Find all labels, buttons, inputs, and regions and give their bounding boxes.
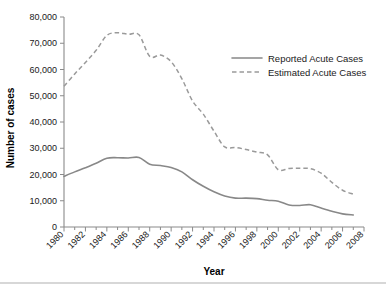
x-tick-label: 2004 [301,229,322,250]
x-tick-label: 1980 [44,229,65,250]
x-axis-tick-labels: 1980198219841986198819901992199419961998… [44,229,365,250]
x-tick-label: 1996 [216,229,237,250]
x-tick-label: 1982 [66,229,87,250]
chart-container: 010,00020,00030,00040,00050,00060,00070,… [0,0,386,289]
y-tick-label: 60,000 [29,65,57,75]
x-tick-label: 2002 [280,229,301,250]
x-tick-label: 1984 [87,229,108,250]
x-tick-label: 2000 [258,229,279,250]
x-tick-label: 1988 [130,229,151,250]
x-tick-label: 1994 [194,229,215,250]
y-axis-tick-labels: 010,00020,00030,00040,00050,00060,00070,… [29,12,57,232]
chart-legend: Reported Acute Cases Estimated Acute Cas… [232,53,366,78]
x-tick-label: 1990 [151,229,172,250]
y-tick-label: 30,000 [29,143,57,153]
x-tick-label: 2006 [323,229,344,250]
legend-label-reported: Reported Acute Cases [268,53,363,64]
y-axis-title: Number of cases [5,87,16,168]
x-tick-label: 2008 [344,229,365,250]
y-tick-label: 70,000 [29,38,57,48]
x-tick-label: 1992 [173,229,194,250]
x-tick-label: 1998 [237,229,258,250]
y-tick-label: 40,000 [29,117,57,127]
y-tick-label: 10,000 [29,196,57,206]
y-axis-ticks [60,17,64,227]
x-tick-label: 1986 [108,229,129,250]
y-tick-label: 20,000 [29,170,57,180]
x-axis-title: Year [203,266,224,277]
line-chart: 010,00020,00030,00040,00050,00060,00070,… [0,0,386,289]
y-tick-label: 80,000 [29,12,57,22]
x-axis-ticks [64,227,364,232]
series-line-reported-acute-cases [64,157,353,215]
y-tick-label: 50,000 [29,91,57,101]
legend-label-estimated: Estimated Acute Cases [268,67,366,78]
